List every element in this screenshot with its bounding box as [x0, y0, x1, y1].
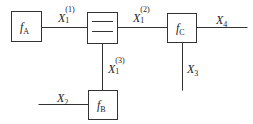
- signal-label-x1-2: X(2)1: [133, 12, 154, 24]
- signal-label-x2: X2: [57, 92, 68, 107]
- signal-label-x1-3: X(3)1: [108, 63, 129, 75]
- signal-label-x1-1: X(1)1: [58, 12, 79, 24]
- block-label-fC: fC: [176, 22, 185, 37]
- block-label-fA: fA: [20, 21, 29, 36]
- signal-label-x4: X4: [216, 14, 227, 29]
- signal-label-x3: X3: [187, 63, 198, 78]
- block-label-fB: fB: [97, 99, 106, 114]
- block-splitter: [88, 13, 118, 44]
